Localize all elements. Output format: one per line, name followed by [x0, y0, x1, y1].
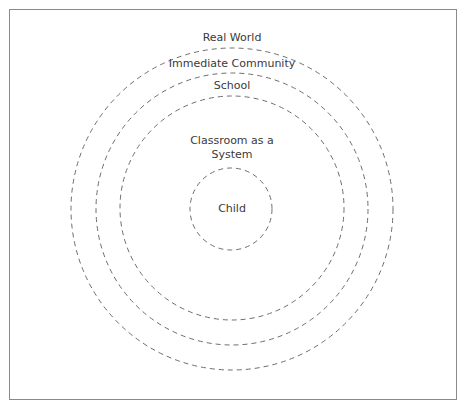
label-immediate-community: Immediate Community [169, 57, 295, 71]
label-child: Child [218, 202, 246, 216]
label-real-world: Real World [203, 31, 262, 45]
label-classroom-as-a-system: Classroom as a System [177, 134, 287, 162]
label-school: School [214, 79, 251, 93]
